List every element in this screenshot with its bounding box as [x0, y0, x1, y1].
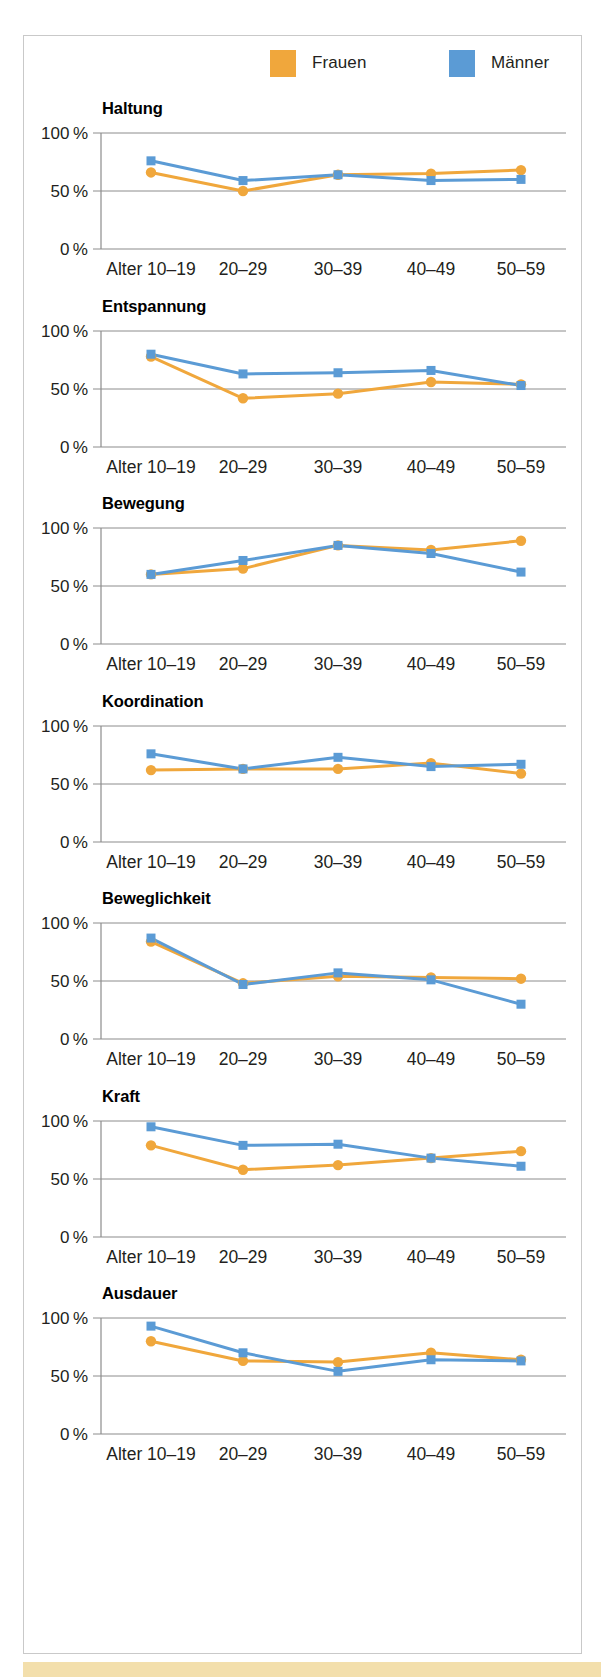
data-point-männer [147, 934, 156, 943]
x-axis-label-3: 40–49 [407, 852, 456, 872]
x-axis-label-1: 20–29 [219, 1247, 268, 1267]
figure-panel: Frauen Männer Haltung100 %50 %0 %Alter 1… [23, 35, 582, 1654]
x-axis-label-3: 40–49 [407, 259, 456, 279]
chart-block-koordination: Koordination100 %50 %0 %Alter 10–1920–29… [24, 692, 582, 888]
chart-block-ausdauer: Ausdauer100 %50 %0 %Alter 10–1920–2930–3… [24, 1284, 582, 1480]
chart-block-kraft: Kraft100 %50 %0 %Alter 10–1920–2930–3940… [24, 1087, 582, 1283]
data-point-männer [334, 1367, 343, 1376]
legend-label-frauen: Frauen [312, 53, 366, 73]
x-axis-label-0: Alter 10–19 [106, 1049, 196, 1069]
data-point-männer [147, 570, 156, 579]
data-point-männer [334, 368, 343, 377]
legend-label-maenner: Männer [491, 53, 549, 73]
y-axis-tick-label: 50 % [51, 1170, 88, 1189]
x-axis-label-4: 50–59 [497, 654, 546, 674]
data-point-männer [427, 1153, 436, 1162]
y-axis-tick-label: 50 % [51, 775, 88, 794]
y-axis-tick-label: 0 % [60, 1425, 88, 1444]
data-point-frauen [146, 1336, 156, 1346]
data-point-männer [334, 752, 343, 761]
x-axis-label-4: 50–59 [497, 259, 546, 279]
x-axis-label-4: 50–59 [497, 1049, 546, 1069]
data-point-frauen [238, 1164, 248, 1174]
x-axis-label-1: 20–29 [219, 852, 268, 872]
x-axis-label-1: 20–29 [219, 654, 268, 674]
y-axis-tick-label: 50 % [51, 182, 88, 201]
chart-plot-area: 100 %50 %0 %Alter 10–1920–2930–3940–4950… [24, 1087, 582, 1283]
chart-plot-area: 100 %50 %0 %Alter 10–1920–2930–3940–4950… [24, 297, 582, 493]
x-axis-label-0: Alter 10–19 [106, 1444, 196, 1464]
legend-entry-frauen: Frauen [270, 48, 366, 78]
data-point-männer [147, 349, 156, 358]
data-point-frauen [238, 186, 248, 196]
data-point-männer [517, 1356, 526, 1365]
x-axis-label-3: 40–49 [407, 1444, 456, 1464]
data-point-männer [239, 980, 248, 989]
caption-strip [23, 1662, 601, 1677]
legend-entry-maenner: Männer [449, 48, 549, 78]
chart-plot-area: 100 %50 %0 %Alter 10–1920–2930–3940–4950… [24, 99, 582, 295]
data-point-männer [517, 759, 526, 768]
data-point-frauen [333, 763, 343, 773]
x-axis-label-4: 50–59 [497, 852, 546, 872]
x-axis-label-3: 40–49 [407, 1049, 456, 1069]
x-axis-label-4: 50–59 [497, 1444, 546, 1464]
data-point-frauen [333, 1159, 343, 1169]
data-point-frauen [146, 764, 156, 774]
x-axis-label-1: 20–29 [219, 1444, 268, 1464]
x-axis-label-2: 30–39 [314, 1444, 363, 1464]
data-point-frauen [333, 1357, 343, 1367]
y-axis-tick-label: 100 % [41, 914, 88, 933]
y-axis-tick-label: 100 % [41, 519, 88, 538]
data-point-frauen [426, 376, 436, 386]
y-axis-tick-label: 50 % [51, 577, 88, 596]
y-axis-tick-label: 100 % [41, 322, 88, 341]
chart-block-bewegung: Bewegung100 %50 %0 %Alter 10–1920–2930–3… [24, 494, 582, 690]
data-point-männer [427, 762, 436, 771]
x-axis-label-0: Alter 10–19 [106, 457, 196, 477]
x-axis-label-0: Alter 10–19 [106, 1247, 196, 1267]
y-axis-tick-label: 0 % [60, 1228, 88, 1247]
data-point-männer [239, 1140, 248, 1149]
y-axis-tick-label: 0 % [60, 438, 88, 457]
chart-plot-area: 100 %50 %0 %Alter 10–1920–2930–3940–4950… [24, 889, 582, 1085]
data-point-männer [147, 156, 156, 165]
data-point-männer [427, 549, 436, 558]
data-point-frauen [238, 393, 248, 403]
chart-plot-area: 100 %50 %0 %Alter 10–1920–2930–3940–4950… [24, 494, 582, 690]
x-axis-label-2: 30–39 [314, 1247, 363, 1267]
y-axis-tick-label: 0 % [60, 240, 88, 259]
y-axis-tick-label: 50 % [51, 380, 88, 399]
x-axis-label-2: 30–39 [314, 852, 363, 872]
x-axis-label-3: 40–49 [407, 457, 456, 477]
data-point-männer [517, 175, 526, 184]
chart-block-entspannung: Entspannung100 %50 %0 %Alter 10–1920–293… [24, 297, 582, 493]
data-point-männer [334, 541, 343, 550]
data-point-frauen [516, 973, 526, 983]
y-axis-tick-label: 50 % [51, 1367, 88, 1386]
data-point-männer [147, 1122, 156, 1131]
y-axis-tick-label: 0 % [60, 833, 88, 852]
data-point-männer [517, 1000, 526, 1009]
data-point-frauen [516, 768, 526, 778]
chart-plot-area: 100 %50 %0 %Alter 10–1920–2930–3940–4950… [24, 1284, 582, 1480]
data-point-männer [517, 568, 526, 577]
data-point-frauen [516, 165, 526, 175]
data-point-frauen [516, 1145, 526, 1155]
x-axis-label-4: 50–59 [497, 457, 546, 477]
data-point-männer [427, 176, 436, 185]
data-point-frauen [146, 1140, 156, 1150]
x-axis-label-0: Alter 10–19 [106, 852, 196, 872]
data-point-frauen [516, 536, 526, 546]
x-axis-label-3: 40–49 [407, 654, 456, 674]
data-point-männer [239, 764, 248, 773]
data-point-männer [334, 170, 343, 179]
data-point-männer [334, 968, 343, 977]
data-point-männer [239, 176, 248, 185]
chart-block-beweglichkeit: Beweglichkeit100 %50 %0 %Alter 10–1920–2… [24, 889, 582, 1085]
x-axis-label-1: 20–29 [219, 1049, 268, 1069]
y-axis-tick-label: 0 % [60, 1030, 88, 1049]
x-axis-label-3: 40–49 [407, 1247, 456, 1267]
x-axis-label-2: 30–39 [314, 259, 363, 279]
x-axis-label-2: 30–39 [314, 457, 363, 477]
